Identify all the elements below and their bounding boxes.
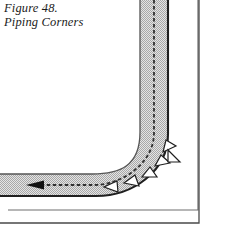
corner-wedge [168,150,180,162]
piping-inner-edge [0,0,140,174]
piping-strip [0,0,168,196]
notch [163,140,176,152]
figure-piping-corners: Figure 48. Piping Corners [0,0,244,231]
piping-corner-illustration [0,0,244,231]
